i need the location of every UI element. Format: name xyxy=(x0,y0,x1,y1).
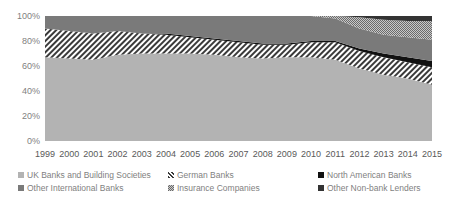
x-tick-label: 2001 xyxy=(83,149,103,159)
y-tick-label: 0% xyxy=(27,136,40,146)
legend-item-other-international-banks: Other International Banks xyxy=(18,183,168,193)
plot-area xyxy=(45,16,432,141)
x-tick-label: 2002 xyxy=(108,149,128,159)
x-tick-label: 2013 xyxy=(374,149,394,159)
x-tick-label: 2014 xyxy=(398,149,418,159)
x-tick-label: 2015 xyxy=(422,149,442,159)
x-tick-label: 2007 xyxy=(228,149,248,159)
x-tick-label: 2006 xyxy=(204,149,224,159)
legend-item-other-non-bank-lenders: Other Non-bank Lenders xyxy=(318,183,421,193)
legend-item-german-banks: German Banks xyxy=(168,170,318,180)
legend-item-uk-banks: UK Banks and Building Societies xyxy=(18,170,168,180)
legend-item-north-american-banks: North American Banks xyxy=(318,170,412,180)
german-banks-swatch-icon xyxy=(168,172,174,178)
x-tick-label: 2011 xyxy=(326,149,345,159)
y-tick-label: 20% xyxy=(22,111,40,121)
other-international-banks-swatch-icon xyxy=(18,185,24,191)
y-tick-label: 60% xyxy=(22,61,40,71)
y-tick-label: 40% xyxy=(22,86,40,96)
x-tick-label: 2012 xyxy=(349,149,369,159)
other-non-bank-lenders-swatch-icon xyxy=(318,185,324,191)
uk-banks-swatch-icon xyxy=(18,172,24,178)
x-tick-label: 2005 xyxy=(180,149,200,159)
x-tick-label: 2003 xyxy=(132,149,152,159)
x-tick-label: 2000 xyxy=(59,149,79,159)
x-tick-label: 2010 xyxy=(301,149,321,159)
x-tick-label: 2004 xyxy=(156,149,176,159)
insurance-companies-swatch-icon xyxy=(168,185,174,191)
x-tick-label: 2009 xyxy=(277,149,297,159)
y-tick-label: 80% xyxy=(22,36,40,46)
x-tick-label: 2008 xyxy=(253,149,273,159)
north-american-banks-swatch-icon xyxy=(318,172,324,178)
x-axis: 1999200020012002200320042005200620072008… xyxy=(35,149,442,159)
y-axis: 0%20%40%60%80%100% xyxy=(17,11,40,146)
x-tick-label: 1999 xyxy=(35,149,55,159)
legend: UK Banks and Building Societies German B… xyxy=(18,168,448,194)
legend-item-insurance-companies: Insurance Companies xyxy=(168,183,318,193)
y-tick-label: 100% xyxy=(17,11,40,21)
